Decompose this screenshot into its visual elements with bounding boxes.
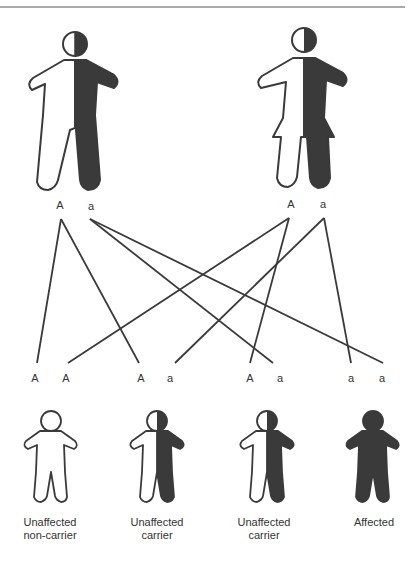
child2-allele-1: A (134, 372, 148, 384)
child1-caption-line1: Unaffected (10, 516, 90, 529)
father-allele-dominant: A (53, 199, 67, 211)
child2-caption: Unaffected carrier (117, 516, 197, 542)
child3-caption-line1: Unaffected (224, 516, 304, 529)
child-affected-icon (346, 411, 398, 502)
child3-allele-1: A (243, 372, 257, 384)
child2-allele-2: a (163, 372, 177, 384)
child1-allele-1: A (28, 372, 42, 384)
child4-allele-1: a (344, 372, 358, 384)
child3-caption-line2: carrier (224, 529, 304, 542)
father-allele-recessive: a (84, 200, 98, 212)
mother-allele-dominant: A (284, 198, 298, 210)
child4-caption-line1: Affected (334, 516, 414, 529)
child2-caption-line1: Unaffected (117, 516, 197, 529)
child3-allele-2: a (273, 372, 287, 384)
father-carrier-icon (29, 32, 117, 190)
child1-allele-2: A (59, 372, 73, 384)
child-carrier-icon-2 (240, 411, 293, 502)
child1-caption: Unaffected non-carrier (10, 516, 90, 542)
child-unaffected-noncarrier-icon (24, 411, 76, 502)
mother-carrier-icon (258, 28, 346, 188)
child4-caption: Affected (334, 516, 414, 529)
child-carrier-icon-1 (130, 411, 183, 502)
child3-caption: Unaffected carrier (224, 516, 304, 542)
child1-caption-line2: non-carrier (10, 529, 90, 542)
child4-allele-2: a (375, 372, 389, 384)
allele-lines (37, 218, 383, 363)
inheritance-diagram (0, 0, 420, 567)
child2-caption-line2: carrier (117, 529, 197, 542)
mother-allele-recessive: a (316, 198, 330, 210)
